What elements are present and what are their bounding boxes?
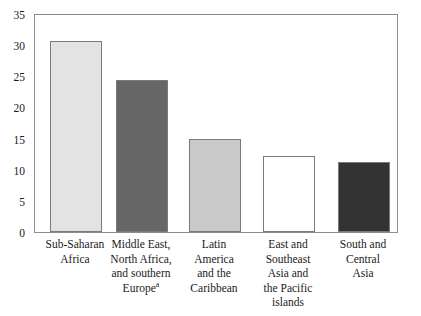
x-label-middle-east-north-africa-southern-europe: Middle East,North Africa,and southernEur… [101,237,181,295]
x-label-line: and the [174,266,254,281]
x-label-line: Asia and [248,266,328,281]
y-axis: 35 30 25 20 15 10 5 0 [0,0,34,316]
y-tick-label-5: 5 [19,195,34,209]
y-tick-label-10: 10 [14,164,35,178]
y-tick-label-0: 0 [19,226,34,240]
x-label-line: Caribbean [174,281,254,296]
x-label-line: Asia [323,266,403,281]
x-label-line: South and [323,237,403,252]
y-tick-label-20: 20 [14,101,35,115]
bar-sub-saharan-africa [50,41,102,233]
x-label-line: East and [248,237,328,252]
x-label-line: Latin [174,237,254,252]
x-label-line: the Pacific [248,281,328,296]
bar-middle-east-north-africa-southern-europe [116,80,168,232]
y-tick-label-15: 15 [14,133,35,147]
y-tick-label-35: 35 [14,8,35,22]
bar-chart-figure: 35 30 25 20 15 10 5 0 [0,0,421,316]
x-label-latin-america-caribbean: LatinAmericaand theCaribbean [174,237,254,295]
x-label-line: Southeast [248,252,328,267]
y-tick-35: 35 [0,8,34,22]
y-tick-5: 5 [0,195,34,209]
x-axis-labels: Sub-SaharanAfrica Middle East,North Afri… [34,237,398,316]
footnote-marker: a [156,280,160,289]
y-tick-20: 20 [0,101,34,115]
x-label-line: Central [323,252,403,267]
bar-latin-america-caribbean [189,139,241,232]
x-label-line: and southern [101,266,181,281]
x-label-line: America [174,252,254,267]
x-label-line: North Africa, [101,252,181,267]
y-tick-10: 10 [0,164,34,178]
y-tick-label-30: 30 [14,39,35,53]
x-label-line: islands [248,295,328,310]
x-label-line: Europea [101,281,181,296]
bar-east-southeast-asia-pacific-islands [263,156,315,232]
plot-area [34,14,398,233]
y-tick-0: 0 [0,226,34,240]
y-tick-15: 15 [0,133,34,147]
y-tick-30: 30 [0,39,34,53]
x-label-line: Middle East, [101,237,181,252]
y-tick-label-25: 25 [14,70,35,84]
bar-south-central-asia [338,162,390,232]
y-tick-25: 25 [0,70,34,84]
x-label-east-southeast-asia-pacific-islands: East andSoutheastAsia andthe Pacificisla… [248,237,328,310]
x-label-south-central-asia: South andCentralAsia [323,237,403,281]
